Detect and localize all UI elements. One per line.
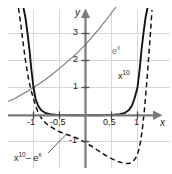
curve-label-difference: x10– ex: [14, 152, 42, 163]
function-plot-figure: -1 -0,5 0,5 1 3 2 1 -1 y x ex x10 x10– e…: [0, 0, 172, 174]
plot-canvas: [0, 0, 172, 174]
curve-label-difference-minus: – e: [26, 153, 39, 163]
x-tick-label-neg1: -1: [27, 118, 35, 127]
curve-label-difference-exponent: 10: [19, 151, 26, 158]
x-tick-label-neg05: -0,5: [50, 118, 66, 127]
curve-label-ex: ex: [112, 45, 120, 56]
curve-label-x10: x10: [118, 70, 130, 81]
y-axis-arrow: [81, 9, 90, 19]
y-tick-label-1: 1: [73, 82, 78, 91]
x-axis-label: x: [160, 118, 165, 128]
axis-lines: [8, 18, 153, 168]
y-axis-label: y: [75, 8, 80, 18]
y-tick-label-2: 2: [73, 55, 78, 64]
curve-label-ex-exponent: x: [117, 44, 120, 51]
leader-line-difference: [48, 135, 66, 154]
curve-label-x10-exponent: 10: [123, 69, 130, 76]
curve-label-difference-exponent2: x: [38, 151, 41, 158]
y-tick-label-3: 3: [73, 28, 78, 37]
y-tick-label-neg1: -1: [69, 136, 77, 145]
x-tick-label-05: 0,5: [103, 118, 116, 127]
x-tick-label-1: 1: [134, 118, 139, 127]
